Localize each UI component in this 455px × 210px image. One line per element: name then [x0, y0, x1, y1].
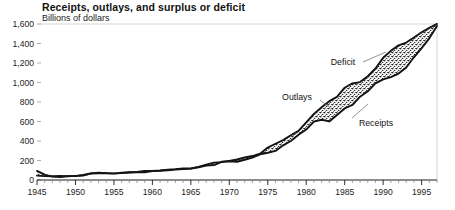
x-axis: 1945195019551960196519701975198019851990…	[27, 180, 437, 197]
outlays-label: Outlays	[282, 92, 312, 102]
y-tick-label: 200	[20, 156, 35, 166]
chart-svg: 02004006008001,0001,2001,4001,600 194519…	[0, 0, 455, 210]
receipts-leader-line	[352, 104, 368, 118]
receipts-label: Receipts	[359, 118, 394, 128]
x-tick-label: 1980	[297, 187, 316, 197]
y-tick-label: 0	[29, 175, 34, 185]
x-tick-label: 1960	[143, 187, 162, 197]
x-tick-label: 1970	[220, 187, 239, 197]
x-tick-label: 1985	[335, 187, 354, 197]
y-tick-label: 400	[20, 136, 35, 146]
x-tick-label: 1995	[412, 187, 431, 197]
x-tick-label: 1990	[374, 187, 393, 197]
y-tick-label: 1,600	[12, 19, 34, 29]
y-tick-label: 600	[20, 117, 35, 127]
chart-annotations: Deficit Outlays Receipts	[282, 52, 394, 128]
x-tick-label: 1975	[258, 187, 277, 197]
plot-area	[37, 24, 437, 177]
outlays-line	[37, 24, 437, 177]
y-tick-label: 1,000	[12, 78, 34, 88]
y-tick-label: 1,200	[12, 58, 34, 68]
x-tick-label: 1950	[66, 187, 85, 197]
deficit-band	[37, 24, 437, 177]
y-tick-label: 800	[20, 97, 35, 107]
receipts-line	[37, 26, 437, 176]
chart-container: Receipts, outlays, and surplus or defici…	[0, 0, 455, 210]
y-tick-label: 1,400	[12, 39, 34, 49]
x-tick-label: 1965	[181, 187, 200, 197]
x-tick-label: 1955	[104, 187, 123, 197]
deficit-label: Deficit	[331, 57, 356, 67]
y-axis: 02004006008001,0001,2001,4001,600	[12, 19, 437, 185]
x-tick-label: 1945	[27, 187, 46, 197]
